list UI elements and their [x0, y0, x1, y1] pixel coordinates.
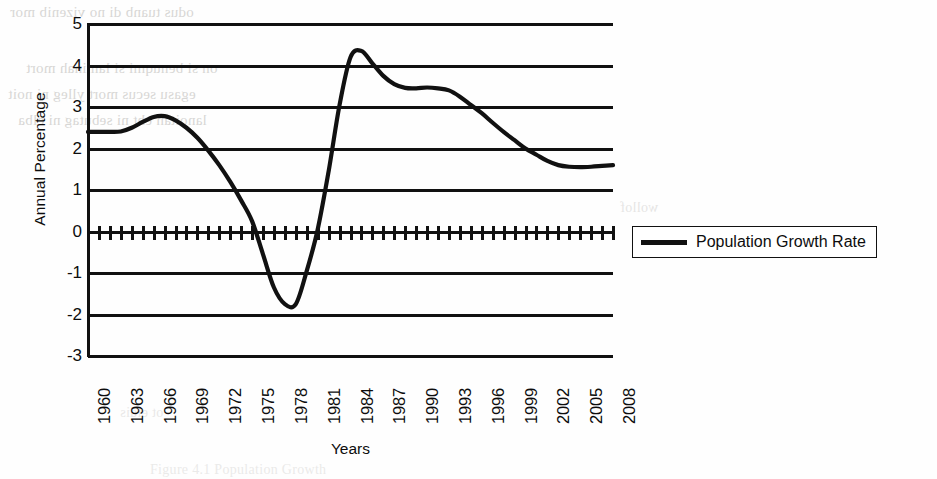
x-tick-label-1966: 1966: [161, 388, 180, 424]
x-tick-label-1999: 1999: [522, 388, 541, 424]
x-tick-label-1963: 1963: [128, 388, 147, 424]
line-chart: Annual Percentage 543210-1-2-3 196019631…: [0, 0, 937, 479]
legend-line-swatch: [641, 240, 687, 245]
x-tick-label-1969: 1969: [193, 388, 212, 424]
chart-legend: Population Growth Rate: [632, 226, 877, 258]
x-tick-label-1987: 1987: [390, 388, 409, 424]
x-tick-label-2005: 2005: [587, 388, 606, 424]
x-tick-label-1960: 1960: [95, 388, 114, 424]
x-tick-label-2008: 2008: [620, 388, 639, 424]
x-tick-label-1990: 1990: [423, 388, 442, 424]
x-axis-title: Years: [88, 440, 613, 458]
x-tick-label-1984: 1984: [358, 388, 377, 424]
legend-entry-label: Population Growth Rate: [696, 233, 866, 251]
x-tick-label-1975: 1975: [259, 388, 278, 424]
x-tick-label-1996: 1996: [489, 388, 508, 424]
x-tick-label-1981: 1981: [325, 388, 344, 424]
chart-page: odus tuanb di no vizenib mor on si benuq…: [0, 0, 937, 479]
x-tick-label-1978: 1978: [292, 388, 311, 424]
x-tick-label-2002: 2002: [554, 388, 573, 424]
x-tick-label-1993: 1993: [456, 388, 475, 424]
x-tick-label-1972: 1972: [226, 388, 245, 424]
